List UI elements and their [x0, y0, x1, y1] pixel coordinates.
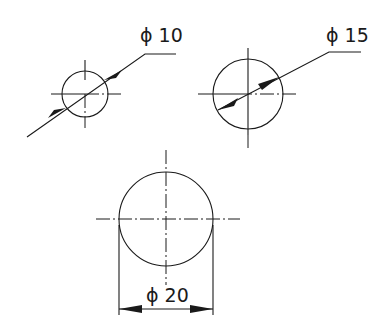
arrowhead-icon: [258, 77, 279, 90]
label-phi-20: ϕ 20: [146, 284, 189, 306]
label-phi-10: ϕ 10: [140, 24, 183, 46]
leader-line-phi-15: [218, 52, 361, 110]
circle-phi-20-group: ϕ 20: [96, 150, 240, 315]
circle-phi-15-group: ϕ 15: [198, 24, 369, 148]
arrowhead-icon: [190, 305, 213, 313]
arrowhead-icon: [119, 305, 142, 313]
leader-line-phi-10: [27, 54, 176, 137]
arrowhead-icon: [104, 70, 122, 80]
circle-phi-10-group: ϕ 10: [27, 24, 183, 137]
label-phi-15: ϕ 15: [326, 24, 369, 46]
dimension-drawing: ϕ 10 ϕ 15 ϕ 20: [0, 0, 390, 329]
